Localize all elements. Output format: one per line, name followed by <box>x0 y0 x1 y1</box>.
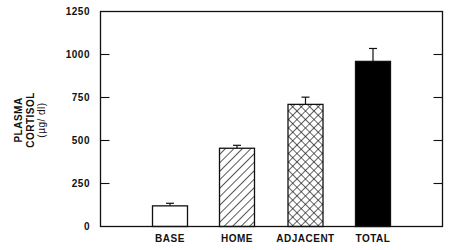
x-category-label: HOME <box>221 233 253 244</box>
y-axis-label-line: CORTISOL <box>25 92 36 148</box>
bars <box>153 48 391 226</box>
y-tick-label: 1000 <box>66 49 90 60</box>
y-tick-label: 750 <box>72 92 90 103</box>
bar-home <box>220 148 255 226</box>
bar-base <box>153 206 188 227</box>
chart-svg: PLASMA CORTISOL (µg/ dl) 025050075010001… <box>0 0 450 250</box>
x-category-label: BASE <box>155 233 185 244</box>
bar-total <box>356 61 391 226</box>
x-category-label: ADJACENT <box>276 233 334 244</box>
bar-adjacent <box>288 104 323 226</box>
y-axis-label-line: (µg/ dl) <box>36 102 47 137</box>
bar-chart: PLASMA CORTISOL (µg/ dl) 025050075010001… <box>0 0 450 250</box>
y-tick-label: 250 <box>72 178 90 189</box>
plot-frame <box>101 12 443 227</box>
y-axis-label-line: PLASMA <box>13 97 24 142</box>
x-category-label: TOTAL <box>356 233 391 244</box>
x-axis-labels: BASEHOMEADJACENTTOTAL <box>155 233 390 244</box>
y-tick-label: 1250 <box>66 6 90 17</box>
y-axis-label: PLASMA CORTISOL (µg/ dl) <box>13 92 47 148</box>
y-tick-label: 0 <box>84 221 90 232</box>
y-tick-label: 500 <box>72 135 90 146</box>
